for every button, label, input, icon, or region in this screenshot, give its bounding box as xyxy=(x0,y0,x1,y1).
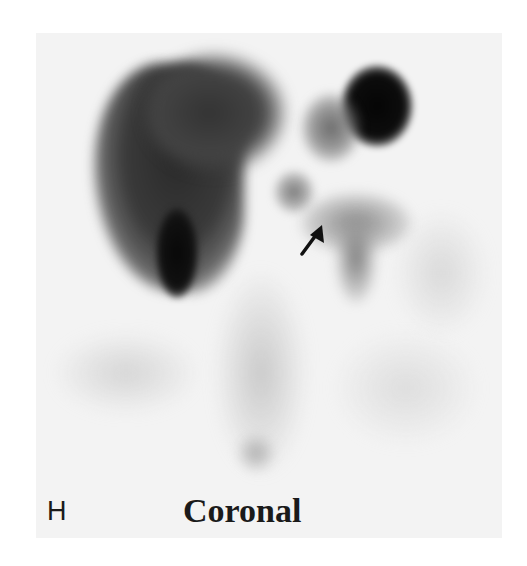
faint-activity-lower-focus xyxy=(236,433,276,473)
arrow-icon xyxy=(298,223,328,257)
faint-activity-lower-right xyxy=(336,333,476,443)
faint-activity-left xyxy=(56,333,196,413)
coronal-scan-image xyxy=(36,33,502,538)
view-caption: Coronal xyxy=(183,494,301,528)
liver-upper-lobe xyxy=(146,53,286,173)
moderate-activity-upper xyxy=(301,93,361,163)
panel-label: H xyxy=(47,498,67,525)
dense-oval-activity xyxy=(156,208,198,298)
bowel-descending-activity xyxy=(336,213,376,303)
faint-activity-right xyxy=(396,213,486,333)
